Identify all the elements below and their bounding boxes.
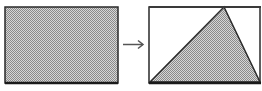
right-arrow-icon: [123, 41, 143, 49]
left-shaded-rectangle: [5, 7, 118, 83]
right-rectangle-with-triangle: [149, 7, 261, 83]
diagram-canvas: [0, 0, 262, 91]
